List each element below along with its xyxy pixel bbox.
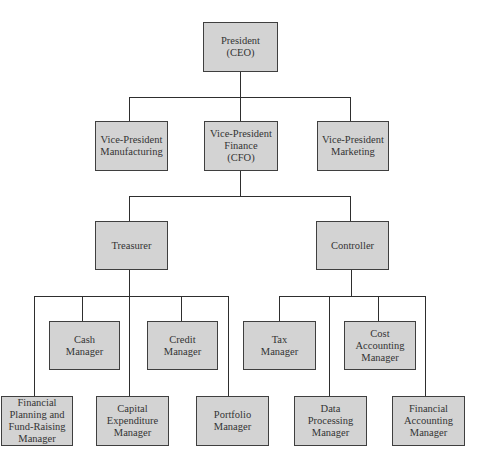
node-vp-finance: Vice-President Finance (CFO): [204, 121, 278, 171]
node-data-processing-manager: Data Processing Manager: [294, 396, 367, 446]
org-chart: President (CEO) Vice-President Manufactu…: [0, 0, 485, 460]
node-treasurer: Treasurer: [95, 221, 168, 270]
connector-controller-down: [351, 270, 353, 296]
connector-to-financial-accounting: [425, 296, 427, 396]
node-cash-manager: Cash Manager: [49, 321, 120, 370]
connector-to-vp-finance: [240, 97, 242, 121]
node-capital-expenditure-manager: Capital Expenditure Manager: [96, 396, 169, 446]
connector-to-portfolio-manager: [228, 296, 230, 396]
node-vp-manufacturing: Vice-President Manufacturing: [95, 121, 168, 171]
connector-to-data-processing: [329, 296, 331, 396]
connector-controller-bus: [279, 296, 426, 298]
connector-to-vp-marketing: [350, 97, 352, 121]
connector-to-controller: [350, 196, 352, 221]
connector-to-cost-accounting: [378, 296, 380, 321]
connector-to-vp-manufacturing: [129, 97, 131, 121]
node-cost-accounting-manager: Cost Accounting Manager: [344, 321, 416, 370]
node-controller: Controller: [316, 221, 389, 270]
connector-president-down: [240, 72, 242, 97]
connector-treasurer-bus: [34, 296, 229, 298]
connector-treasurer-down: [129, 270, 131, 296]
connector-to-cash-manager: [82, 296, 84, 321]
connector-to-treasurer: [129, 196, 131, 221]
connector-to-credit-manager: [181, 296, 183, 321]
node-financial-accounting-manager: Financial Accounting Manager: [392, 396, 465, 446]
connector-vp-finance-down: [240, 171, 242, 196]
node-vp-marketing: Vice-President Marketing: [317, 121, 389, 171]
node-president: President (CEO): [203, 22, 278, 72]
connector-to-capital-expenditure: [129, 296, 131, 396]
connector-to-tax-manager: [279, 296, 281, 321]
connector-to-financial-planning: [34, 296, 36, 396]
node-financial-planning-manager: Financial Planning and Fund-Raising Mana…: [1, 396, 73, 446]
node-tax-manager: Tax Manager: [243, 321, 316, 370]
node-portfolio-manager: Portfolio Manager: [196, 396, 269, 446]
node-credit-manager: Credit Manager: [147, 321, 218, 370]
connector-finance-bus: [129, 196, 351, 198]
